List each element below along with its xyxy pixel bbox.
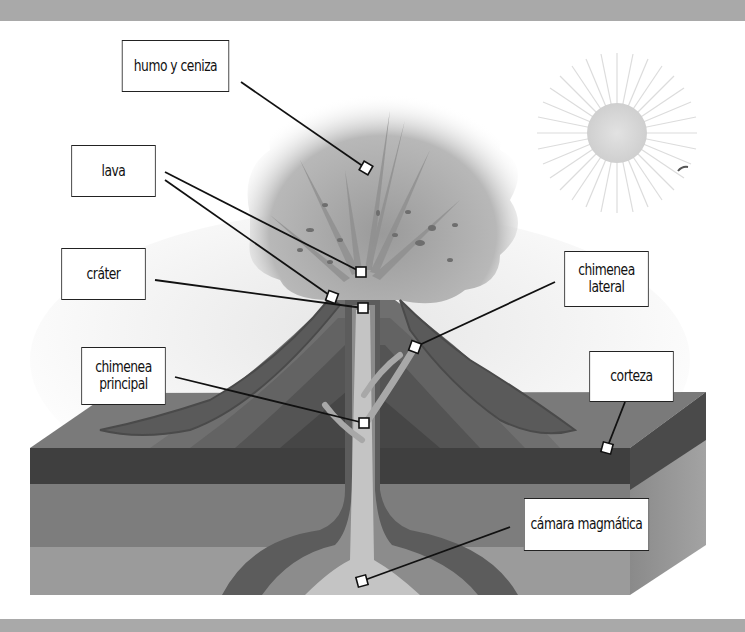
label-text: cámara magmática [531,516,643,533]
label-lava: lava [71,145,155,197]
smoke-cloud [248,70,519,303]
label-chimenea-lateral: chimenea lateral [564,251,648,307]
sun-icon [537,53,697,213]
label-text-line1: chimenea [95,359,151,376]
label-humo-y-ceniza: humo y ceniza [122,40,229,92]
label-text-line2: principal [99,376,148,393]
label-chimenea-principal: chimenea principal [81,347,165,405]
label-text: cráter [87,266,121,283]
label-text: lava [102,163,126,180]
crust-dark-layer [30,448,630,484]
label-crater: cráter [61,248,145,300]
label-text: corteza [610,368,652,385]
label-text-line2: lateral [589,279,625,296]
bottom-frame-bar [0,619,745,632]
label-text: humo y ceniza [134,58,217,75]
label-corteza: corteza [589,351,673,402]
bird-icon [678,167,688,171]
label-text-line1: chimenea [578,262,634,279]
label-camara-magmatica: cámara magmática [524,498,649,551]
